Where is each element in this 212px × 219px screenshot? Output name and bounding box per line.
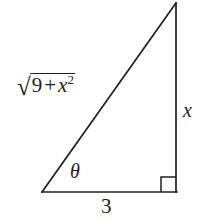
triangle-side-hypotenuse [42,3,176,192]
hypotenuse-label: √9+x2 [17,72,75,97]
right-angle-marker-icon [161,177,176,192]
radicand-group: 9+x2 [30,73,75,96]
radicand-variable: x [58,73,67,97]
angle-label: θ [70,161,80,181]
vertical-leg-label: x [183,100,192,120]
radicand-exponent: 2 [67,72,74,87]
right-triangle-figure: √9+x2 x 3 θ [0,0,212,219]
radical-sign-icon: √ [17,73,30,100]
base-label: 3 [101,196,112,217]
radicand-operator: + [42,73,58,97]
radicand-first-term: 9 [32,73,43,97]
triangle-svg [0,0,212,219]
